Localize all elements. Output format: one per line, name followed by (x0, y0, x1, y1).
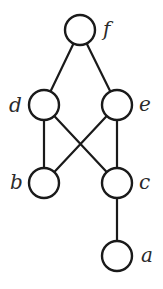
node-c: c (102, 168, 150, 198)
node-circle-d (29, 90, 59, 120)
node-f: f (65, 15, 114, 45)
node-circle-f (65, 15, 95, 45)
node-a: a (102, 241, 153, 271)
node-circle-b (29, 168, 59, 198)
node-circle-a (102, 241, 132, 271)
node-d: d (9, 90, 59, 120)
node-label-a: a (141, 243, 153, 267)
node-label-d: d (9, 93, 22, 117)
node-label-c: c (139, 170, 150, 194)
edges-layer (44, 30, 117, 256)
node-circle-c (102, 168, 132, 198)
node-label-e: e (139, 92, 151, 116)
node-label-b: b (10, 170, 23, 194)
node-circle-e (102, 90, 132, 120)
hasse-diagram: fdebca (0, 0, 163, 289)
node-label-f: f (101, 17, 114, 41)
node-e: e (102, 90, 151, 120)
node-b: b (10, 168, 59, 198)
